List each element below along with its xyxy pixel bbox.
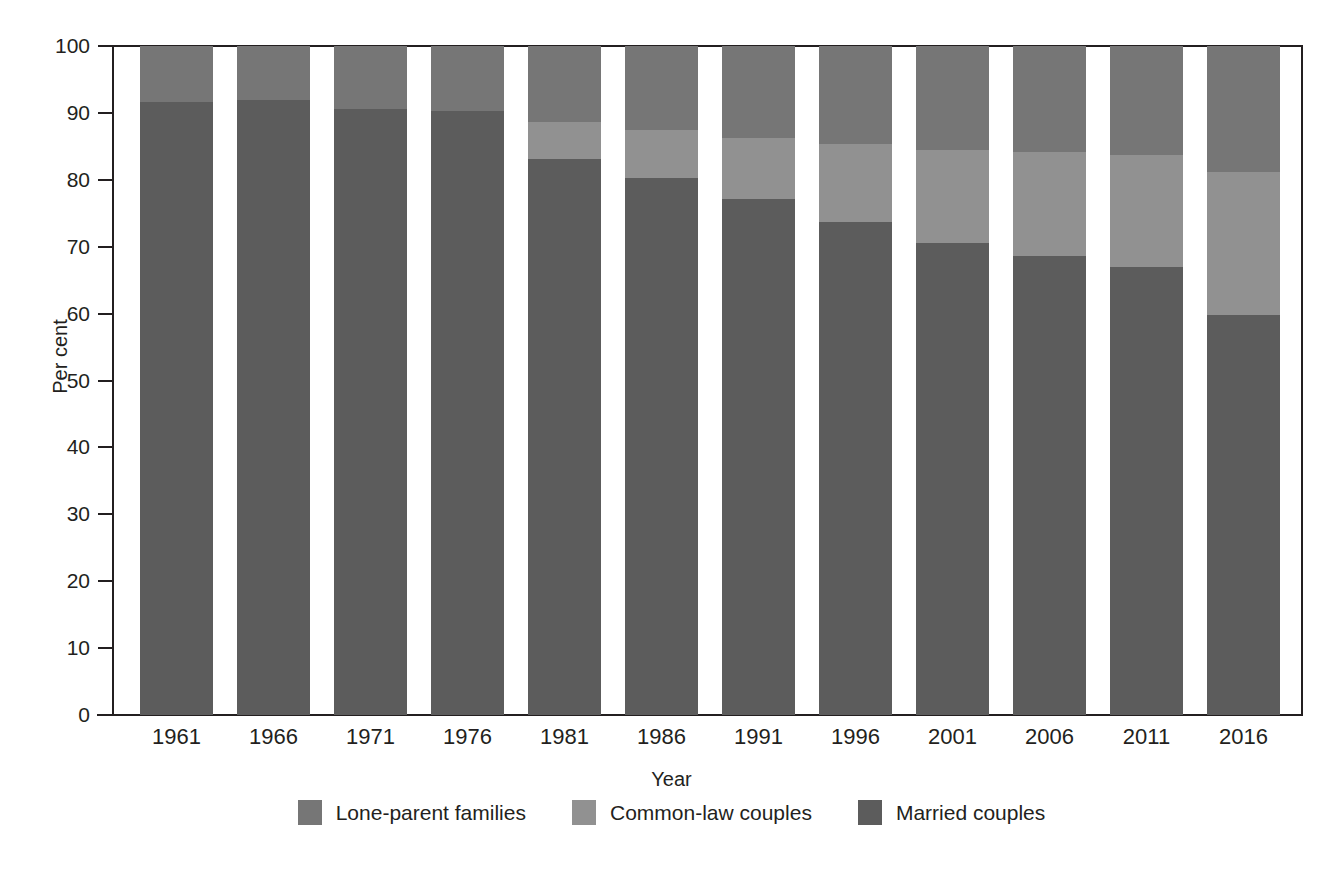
y-axis-tick-mark bbox=[98, 380, 112, 382]
bar-segment[interactable] bbox=[334, 46, 407, 109]
bar-segment[interactable] bbox=[819, 222, 892, 715]
bar-segment[interactable] bbox=[1207, 315, 1280, 715]
bar-segment[interactable] bbox=[237, 46, 310, 100]
bar-segment[interactable] bbox=[819, 46, 892, 144]
y-axis-tick-mark bbox=[98, 446, 112, 448]
bar-segment[interactable] bbox=[140, 102, 213, 715]
bar-segment[interactable] bbox=[528, 46, 601, 122]
y-axis-tick-label: 50 bbox=[67, 368, 90, 393]
bar-group[interactable] bbox=[1110, 46, 1183, 715]
legend-swatch-icon bbox=[298, 800, 322, 825]
bar-group[interactable] bbox=[334, 46, 407, 715]
bar-segment[interactable] bbox=[625, 130, 698, 178]
bar-segment[interactable] bbox=[1207, 172, 1280, 314]
y-axis-tick-mark bbox=[98, 45, 112, 47]
bar-segment[interactable] bbox=[916, 46, 989, 150]
bar-segment[interactable] bbox=[528, 122, 601, 159]
bar-segment[interactable] bbox=[1013, 152, 1086, 256]
legend-swatch-icon bbox=[858, 800, 882, 825]
bar-segment[interactable] bbox=[528, 159, 601, 715]
bar-segment[interactable] bbox=[916, 150, 989, 243]
y-axis-tick-mark bbox=[98, 246, 112, 248]
y-axis-tick-label: 30 bbox=[67, 501, 90, 526]
bar-segment[interactable] bbox=[1110, 46, 1183, 155]
y-axis-tick-label: 20 bbox=[67, 568, 90, 593]
y-axis-tick-label: 70 bbox=[67, 234, 90, 259]
y-axis-tick-label: 100 bbox=[55, 33, 90, 58]
plot-area bbox=[112, 46, 1302, 715]
y-axis-tick-mark bbox=[98, 112, 112, 114]
y-axis-tick-mark bbox=[98, 647, 112, 649]
bar-group[interactable] bbox=[722, 46, 795, 715]
stacked-bar-chart: Per cent 0102030405060708090100 19611966… bbox=[0, 0, 1343, 875]
bar-segment[interactable] bbox=[819, 144, 892, 222]
y-axis-tick-mark bbox=[98, 179, 112, 181]
bar-segment[interactable] bbox=[1013, 46, 1086, 152]
bar-segment[interactable] bbox=[237, 100, 310, 715]
bar-segment[interactable] bbox=[431, 46, 504, 111]
bar-group[interactable] bbox=[916, 46, 989, 715]
legend-item[interactable]: Married couples bbox=[858, 800, 1045, 825]
legend-swatch-icon bbox=[572, 800, 596, 825]
x-axis-tick-label: 2016 bbox=[1184, 724, 1304, 750]
bar-segment[interactable] bbox=[625, 46, 698, 130]
bar-segment[interactable] bbox=[722, 138, 795, 198]
bar-segment[interactable] bbox=[722, 199, 795, 715]
bar-segment[interactable] bbox=[1013, 256, 1086, 715]
bar-segment[interactable] bbox=[1110, 155, 1183, 267]
bar-group[interactable] bbox=[819, 46, 892, 715]
bar-group[interactable] bbox=[237, 46, 310, 715]
bar-group[interactable] bbox=[1207, 46, 1280, 715]
bar-segment[interactable] bbox=[334, 109, 407, 715]
y-axis-tick-label: 40 bbox=[67, 434, 90, 459]
bar-segment[interactable] bbox=[625, 178, 698, 715]
bar-group[interactable] bbox=[528, 46, 601, 715]
bar-segment[interactable] bbox=[916, 243, 989, 715]
y-axis-tick-label: 90 bbox=[67, 100, 90, 125]
bar-segment[interactable] bbox=[431, 111, 504, 715]
bar-segment[interactable] bbox=[140, 46, 213, 102]
x-axis-title: Year bbox=[0, 768, 1343, 791]
legend-item[interactable]: Lone-parent families bbox=[298, 800, 526, 825]
y-axis-tick-label: 80 bbox=[67, 167, 90, 192]
y-axis-tick-mark bbox=[98, 513, 112, 515]
legend-item[interactable]: Common-law couples bbox=[572, 800, 812, 825]
legend-label: Lone-parent families bbox=[336, 801, 526, 825]
bar-segment[interactable] bbox=[1110, 267, 1183, 715]
y-axis-tick-mark bbox=[98, 580, 112, 582]
legend-label: Married couples bbox=[896, 801, 1045, 825]
y-axis-tick-label: 60 bbox=[67, 301, 90, 326]
chart-legend: Lone-parent familiesCommon-law couplesMa… bbox=[0, 800, 1343, 825]
legend-label: Common-law couples bbox=[610, 801, 812, 825]
y-axis-tick-mark bbox=[98, 313, 112, 315]
bar-segment[interactable] bbox=[722, 46, 795, 138]
bar-group[interactable] bbox=[140, 46, 213, 715]
bar-group[interactable] bbox=[1013, 46, 1086, 715]
y-axis-tick-mark bbox=[98, 714, 112, 716]
bar-group[interactable] bbox=[431, 46, 504, 715]
y-axis-tick-label: 0 bbox=[78, 702, 90, 727]
y-axis-tick-label: 10 bbox=[67, 635, 90, 660]
bar-group[interactable] bbox=[625, 46, 698, 715]
bar-segment[interactable] bbox=[1207, 46, 1280, 172]
